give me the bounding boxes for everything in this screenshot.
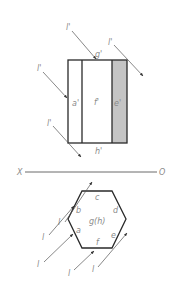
vertex-label-b: b: [76, 206, 81, 215]
ray-label: l': [37, 64, 41, 73]
vertex-label-c: c: [95, 193, 100, 202]
face-label-a: a': [72, 99, 79, 108]
light-ray-bottom-1: [74, 251, 94, 270]
vertex-label-a: a: [76, 226, 81, 235]
vertex-label-e: e: [111, 231, 116, 240]
bottom-label-h: h': [95, 147, 102, 156]
light-ray-upper-left-1: [65, 182, 92, 222]
ray-label: l': [108, 38, 112, 47]
projection-drawing: a' f' e' g' h' l' l' l' l' X O c b d a e…: [0, 0, 178, 296]
ray-label: l: [37, 260, 40, 269]
vertex-label-d: d: [113, 206, 119, 215]
light-ray-left-bottom: [53, 126, 81, 157]
ray-label: l': [47, 119, 51, 128]
elevation-view: a' f' e' g' h' l' l' l' l': [37, 23, 143, 157]
light-ray-top-center: [72, 31, 96, 59]
ray-label: l: [92, 265, 95, 274]
top-label-g: g': [95, 50, 102, 59]
ray-label: l: [42, 233, 45, 242]
center-label-gh: g(h): [89, 217, 105, 226]
face-label-f: f': [94, 98, 99, 107]
face-label-e: e': [114, 99, 121, 108]
light-ray-left-middle: [43, 72, 67, 98]
vertex-label-f: f: [96, 238, 100, 247]
ground-line-xo: X O: [16, 168, 165, 177]
ray-label: l': [66, 23, 70, 32]
plan-view: c b d a e f g(h) l l l l l: [37, 182, 127, 278]
light-ray-upper-left-2: [49, 206, 74, 235]
light-ray-lower-left: [44, 234, 73, 262]
ground-label-x: X: [16, 168, 23, 177]
ground-label-o: O: [159, 168, 165, 177]
ray-label: l: [68, 269, 71, 278]
